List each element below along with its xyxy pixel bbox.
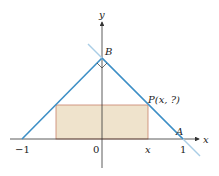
diagram: y x B A P(x, ?) −1 0 x 1	[0, 0, 219, 176]
tick-x: x	[145, 144, 151, 155]
y-axis-label: y	[98, 9, 105, 20]
point-b-label: B	[104, 46, 112, 57]
point-a-label: A	[175, 126, 183, 137]
tick-neg-one: −1	[15, 144, 30, 155]
point-p-label: P(x, ?)	[147, 94, 180, 105]
tick-zero: 0	[93, 144, 99, 155]
tick-one: 1	[180, 144, 186, 155]
x-axis-label: x	[203, 134, 209, 145]
